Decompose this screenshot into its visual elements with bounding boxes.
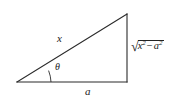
hypotenuse-label: x (57, 33, 62, 44)
opposite-side-label: √x2−a2 (131, 39, 164, 53)
base-label: a (85, 86, 91, 97)
triangle-figure: x a θ √x2−a2 (0, 0, 184, 99)
triangle-hypotenuse-line (17, 14, 127, 82)
angle-theta-label: θ (55, 62, 60, 72)
radical-sign-icon: √ (131, 39, 138, 54)
angle-arc (49, 71, 51, 82)
radicand-operator: − (146, 40, 154, 51)
radicand: x2−a2 (138, 40, 164, 52)
radicand-term2-exponent: 2 (159, 39, 163, 47)
radical-expression: √x2−a2 (131, 39, 164, 53)
